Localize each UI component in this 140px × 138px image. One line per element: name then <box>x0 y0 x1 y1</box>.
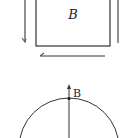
point-b-dot <box>67 97 70 100</box>
square-label: B <box>67 7 78 22</box>
bottom-figure: B <box>19 84 119 138</box>
top-figure: B <box>22 0 118 56</box>
diagram-canvas: B B <box>0 0 140 138</box>
up-arrow-icon <box>67 84 71 89</box>
point-label: B <box>73 87 81 100</box>
